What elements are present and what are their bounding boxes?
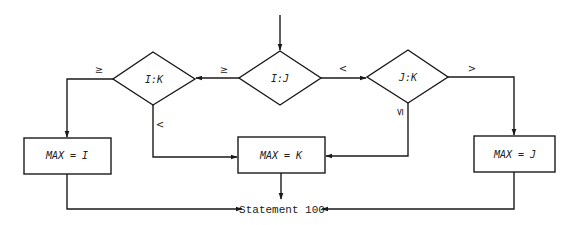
- edge-ik-to-max-i: [67, 79, 113, 137]
- edge-jk-to-max-j: [448, 77, 514, 135]
- edge-label-jk-max-k: ≤: [394, 108, 405, 116]
- edge-max-j-to-stmt: [322, 172, 514, 209]
- edge-label-ik-max-k: <: [156, 119, 164, 130]
- terminal-statement-100: Statement 100: [239, 204, 325, 216]
- process-max-k-label: MAX = K: [259, 150, 303, 161]
- process-max-i-label: MAX = I: [45, 150, 88, 161]
- edge-label-jk-max-j: >: [468, 63, 476, 74]
- flowchart: I:J I:K J:K MAX = I MAX = K MAX = J Stat…: [0, 0, 578, 225]
- decision-i-k-label: I:K: [145, 74, 164, 85]
- decision-i-j-label: I:J: [271, 73, 289, 84]
- edge-label-ij-jk: <: [339, 63, 347, 74]
- edge-label-ik-max-i: ≥: [95, 64, 103, 75]
- decision-j-k-label: J:K: [398, 72, 418, 83]
- edge-ik-to-max-k: [153, 104, 237, 157]
- edge-max-i-to-stmt: [67, 174, 242, 209]
- process-max-j-label: MAX = J: [493, 149, 536, 160]
- edge-label-ij-ik: ≥: [220, 64, 228, 75]
